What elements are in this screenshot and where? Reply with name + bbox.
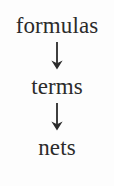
flow-diagram: formulas terms nets bbox=[0, 0, 114, 186]
flow-node-nets: nets bbox=[38, 136, 75, 159]
down-arrow-icon bbox=[0, 98, 114, 136]
down-arrow-icon bbox=[0, 37, 114, 75]
flow-node-formulas: formulas bbox=[16, 14, 99, 37]
flow-node-terms: terms bbox=[31, 75, 83, 98]
